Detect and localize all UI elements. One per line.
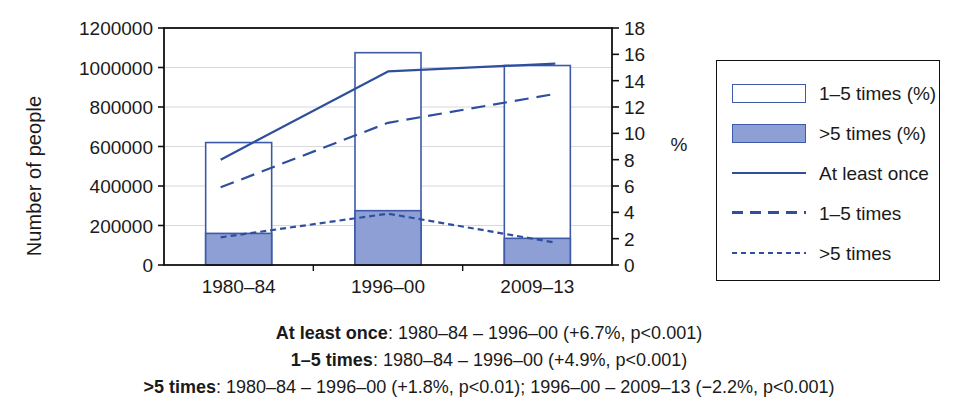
bar-segment-gt5-times (355, 211, 421, 265)
y-axis-tick-label-right: 12 (624, 97, 645, 118)
caption-line-2-label: 1–5 times (291, 350, 373, 370)
legend-item-label: 1–5 times (%) (819, 84, 936, 103)
y-axis-tick-label-left: 600000 (90, 137, 153, 158)
legend-item-label: At least once (819, 164, 929, 183)
legend-line-dotted-icon (732, 243, 806, 263)
legend-item-label: >5 times (%) (819, 124, 926, 143)
legend-item-2[interactable]: At least once (717, 153, 939, 193)
legend-swatch-open-icon (732, 84, 806, 103)
legend-swatch-filled-icon (732, 124, 806, 143)
y-axis-tick-label-right: 4 (624, 202, 635, 223)
x-axis-category-label: 1996–00 (351, 276, 425, 297)
caption-line-2: 1–5 times: 1980–84 – 1996–00 (+4.9%, p<0… (0, 347, 978, 374)
legend-item-label: 1–5 times (819, 204, 901, 223)
legend-line-dashed-icon (732, 203, 806, 223)
legend-line-stroke (732, 211, 806, 214)
legend-item-3[interactable]: 1–5 times (717, 193, 939, 233)
chart-caption: At least once: 1980–84 – 1996–00 (+6.7%,… (0, 320, 978, 401)
x-axis-category-label: 1980–84 (202, 276, 276, 297)
legend-item-1[interactable]: >5 times (%) (717, 113, 939, 153)
legend-item-label: >5 times (819, 244, 891, 263)
y-axis-tick-label-left: 0 (142, 255, 153, 276)
legend-line-solid-icon (732, 163, 806, 183)
caption-line-1-label: At least once (276, 323, 388, 343)
y-axis-tick-label-right: 18 (624, 18, 645, 39)
y-axis-tick-label-left: 1000000 (79, 58, 153, 79)
caption-line-1: At least once: 1980–84 – 1996–00 (+6.7%,… (0, 320, 978, 347)
legend-item-4[interactable]: >5 times (717, 233, 939, 273)
y-axis-tick-label-right: 14 (624, 71, 646, 92)
caption-line-3: >5 times: 1980–84 – 1996–00 (+1.8%, p<0.… (0, 374, 978, 401)
bar-segment-gt5-times (206, 233, 272, 265)
y-axis-tick-label-left: 800000 (90, 97, 153, 118)
y-axis-tick-label-right: 2 (624, 229, 635, 250)
y-axis-tick-label-left: 400000 (90, 176, 153, 197)
y-axis-tick-label-right: 16 (624, 44, 645, 65)
legend-item-0[interactable]: 1–5 times (%) (717, 73, 939, 113)
y-axis-title-right: % (662, 134, 696, 156)
caption-line-1-text: : 1980–84 – 1996–00 (+6.7%, p<0.001) (388, 323, 702, 343)
caption-line-3-label: >5 times (143, 377, 216, 397)
bar-segment-1-5-times (504, 66, 570, 265)
caption-line-2-text: : 1980–84 – 1996–00 (+4.9%, p<0.001) (373, 350, 687, 370)
y-axis-tick-label-right: 6 (624, 176, 635, 197)
y-axis-tick-label-right: 0 (624, 255, 635, 276)
caption-line-3-text: : 1980–84 – 1996–00 (+1.8%, p<0.01); 199… (216, 377, 835, 397)
legend-line-stroke (732, 172, 806, 174)
y-axis-tick-label-left: 200000 (90, 216, 153, 237)
legend-line-stroke (732, 252, 806, 254)
chart-legend: 1–5 times (%)>5 times (%)At least once1–… (716, 60, 940, 281)
x-axis-category-label: 2009–13 (500, 276, 574, 297)
chart-figure: Number of people 02000004000006000008000… (0, 0, 978, 405)
y-axis-tick-label-left: 1200000 (79, 18, 153, 39)
y-axis-tick-label-right: 10 (624, 123, 645, 144)
y-axis-tick-label-right: 8 (624, 150, 635, 171)
bar-segment-gt5-times (504, 238, 570, 265)
